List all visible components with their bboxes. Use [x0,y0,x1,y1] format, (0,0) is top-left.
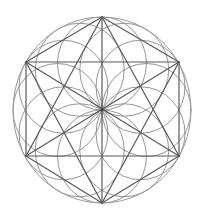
geometry-diagram [0,0,202,218]
center-point [101,109,103,111]
